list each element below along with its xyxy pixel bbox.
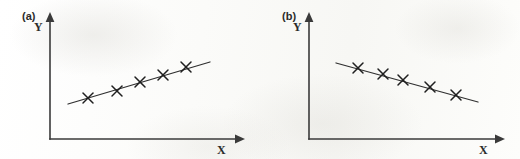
- x-axis-arrowhead-a: [235, 135, 245, 144]
- data-point: [425, 82, 435, 92]
- x-axis-arrowhead-b: [495, 135, 505, 144]
- data-points-a: [83, 62, 191, 103]
- panel-a: (a) Y X: [0, 0, 260, 159]
- y-axis-label-a: Y: [34, 20, 43, 34]
- data-point: [181, 62, 191, 72]
- y-axis-arrowhead-b: [305, 12, 314, 22]
- data-point: [83, 93, 93, 103]
- x-axis-label-a: X: [217, 143, 226, 157]
- x-axis-label-b: X: [479, 143, 488, 157]
- data-points-b: [353, 63, 461, 100]
- y-axis-arrowhead-a: [46, 12, 55, 22]
- data-point: [378, 69, 388, 79]
- y-axis-label-b: Y: [293, 20, 302, 34]
- panel-b: (b) Y X: [260, 0, 520, 159]
- figure-root: (a) Y X: [0, 0, 520, 159]
